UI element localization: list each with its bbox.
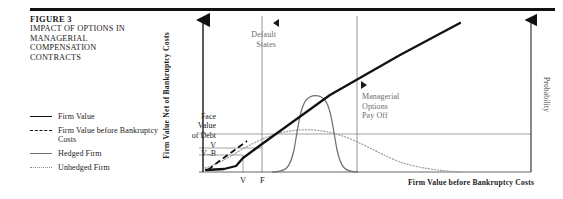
figure-container: FIGURE 3 IMPACT OF OPTIONS IN MANAGERIAL… <box>0 0 563 199</box>
series-firm-value-before-bankruptcy-costs <box>208 141 247 170</box>
plot-area <box>0 0 563 199</box>
series-unhedged-firm <box>205 130 462 172</box>
